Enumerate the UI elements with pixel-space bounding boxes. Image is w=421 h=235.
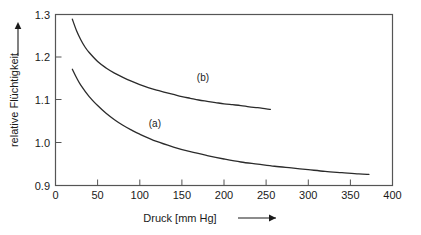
x-axis-title: Druck [mm Hg] bbox=[143, 212, 216, 224]
x-tick-label: 250 bbox=[257, 189, 275, 201]
chart-figure: 0 50 100 150 200 250 300 350 400 0.9 1.0… bbox=[0, 0, 421, 235]
series-group bbox=[72, 19, 369, 174]
x-tick-label: 50 bbox=[91, 189, 103, 201]
x-tick-label: 100 bbox=[131, 189, 149, 201]
curve-label-b: (b) bbox=[197, 72, 209, 83]
x-tick-label: 400 bbox=[383, 189, 401, 201]
x-tick-label: 150 bbox=[173, 189, 191, 201]
curve-label-a: (a) bbox=[149, 118, 161, 129]
chart-canvas: 0 50 100 150 200 250 300 350 400 0.9 1.0… bbox=[0, 0, 421, 235]
series-curve-b bbox=[72, 19, 270, 109]
x-tick-label: 300 bbox=[299, 189, 317, 201]
y-axis-title: relative Flüchtigkeit bbox=[8, 53, 20, 147]
y-axis-ticks bbox=[56, 15, 62, 186]
arrow-up-icon bbox=[15, 22, 22, 56]
y-tick-label: 1.1 bbox=[35, 94, 50, 106]
y-tick-label: 1.0 bbox=[35, 137, 50, 149]
y-tick-label: 1.2 bbox=[35, 51, 50, 63]
series-curve-a bbox=[72, 69, 369, 174]
x-tick-label: 350 bbox=[341, 189, 359, 201]
x-tick-label: 200 bbox=[215, 189, 233, 201]
x-axis-ticks bbox=[56, 180, 393, 186]
plot-frame bbox=[56, 15, 393, 186]
y-tick-labels: 0.9 1.0 1.1 1.2 1.3 bbox=[35, 9, 50, 192]
y-tick-label: 1.3 bbox=[35, 9, 50, 21]
x-tick-label: 0 bbox=[52, 189, 58, 201]
arrow-right-icon bbox=[238, 215, 276, 222]
x-tick-labels: 0 50 100 150 200 250 300 350 400 bbox=[52, 189, 401, 201]
y-tick-label: 0.9 bbox=[35, 180, 50, 192]
